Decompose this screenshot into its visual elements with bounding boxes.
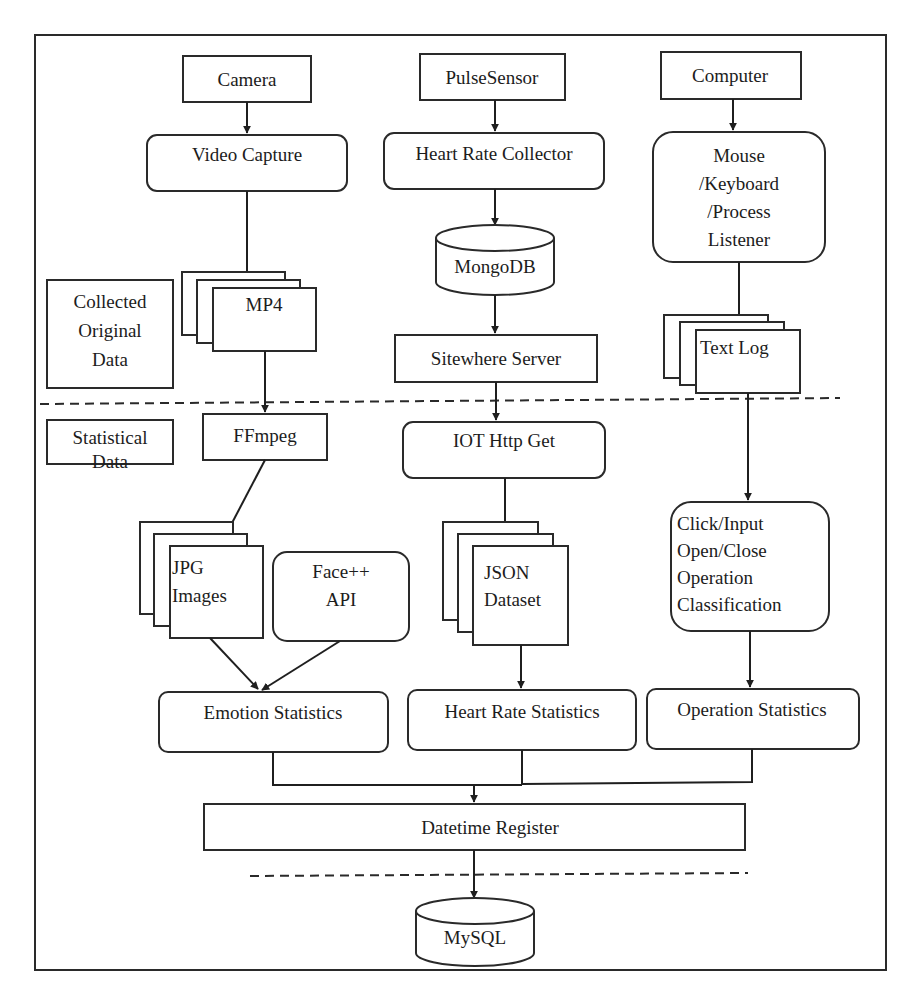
svg-text:MongoDB: MongoDB [454, 256, 535, 277]
svg-text:Emotion Statistics: Emotion Statistics [204, 702, 343, 723]
operation-statistics-node: Operation Statistics [647, 689, 859, 749]
svg-text:JPG: JPG [172, 557, 204, 578]
svg-text:Dataset: Dataset [484, 589, 542, 610]
svg-text:Computer: Computer [692, 65, 769, 86]
svg-text:JSON: JSON [484, 562, 530, 583]
svg-text:Click/Input: Click/Input [677, 513, 764, 534]
ffmpeg-node: FFmpeg [203, 414, 327, 460]
svg-text:Mouse: Mouse [713, 145, 765, 166]
section-label-collected-original-data: Collected Original Data [47, 280, 173, 388]
datetime-register-node: Datetime Register [204, 804, 745, 850]
svg-text:/Process: /Process [707, 201, 770, 222]
computer-node: Computer [661, 52, 801, 99]
jpg-images-stack: JPG Images [140, 522, 263, 638]
svg-text:PulseSensor: PulseSensor [446, 67, 540, 88]
pulsesensor-node: PulseSensor [420, 54, 565, 100]
svg-text:Collected: Collected [74, 291, 147, 312]
text-log-stack: Text Log [664, 315, 800, 393]
svg-text:MySQL: MySQL [444, 927, 506, 948]
svg-text:API: API [326, 589, 357, 610]
mongodb-database-node: MongoDB [436, 225, 554, 295]
svg-text:Heart Rate Statistics: Heart Rate Statistics [444, 701, 599, 722]
svg-text:IOT Http Get: IOT Http Get [453, 430, 556, 451]
svg-text:Original: Original [78, 320, 141, 341]
mouse-keyboard-process-listener-node: Mouse /Keyboard /Process Listener [653, 132, 825, 262]
mp4-files-stack: MP4 [182, 272, 316, 351]
svg-text:Sitewhere Server: Sitewhere Server [431, 348, 562, 369]
svg-text:Operation Statistics: Operation Statistics [677, 699, 826, 720]
sitewhere-server-node: Sitewhere Server [395, 335, 597, 382]
operation-classification-node: Click/Input Open/Close Operation Classif… [671, 502, 829, 631]
svg-text:FFmpeg: FFmpeg [233, 425, 297, 446]
video-capture-node: Video Capture [147, 135, 347, 191]
svg-text:Classification: Classification [677, 594, 782, 615]
section-label-statistical-data: Statistical Data [47, 420, 173, 472]
face-api-node: Face++ API [273, 552, 409, 641]
camera-node: Camera [183, 56, 311, 102]
svg-text:Listener: Listener [708, 229, 771, 250]
svg-text:Images: Images [172, 585, 227, 606]
svg-text:Camera: Camera [217, 69, 277, 90]
heart-rate-collector-node: Heart Rate Collector [384, 133, 604, 189]
iot-http-get-node: IOT Http Get [403, 422, 605, 478]
mysql-database-node: MySQL [416, 898, 534, 966]
data-collection-flow-diagram: Camera Video Capture MP4 Collected Origi… [0, 0, 920, 996]
svg-text:Heart Rate Collector: Heart Rate Collector [415, 143, 573, 164]
svg-text:Datetime Register: Datetime Register [421, 817, 559, 838]
svg-text:Video Capture: Video Capture [192, 144, 302, 165]
emotion-statistics-node: Emotion Statistics [159, 692, 388, 752]
svg-text:Text Log: Text Log [700, 337, 769, 358]
svg-text:Face++: Face++ [312, 561, 369, 582]
svg-text:MP4: MP4 [246, 294, 283, 315]
svg-text:Data: Data [92, 349, 128, 370]
svg-text:Statistical: Statistical [73, 427, 148, 448]
svg-text:/Keyboard: /Keyboard [699, 173, 780, 194]
svg-text:Data: Data [92, 451, 128, 472]
svg-text:Operation: Operation [677, 567, 753, 588]
svg-text:Open/Close: Open/Close [677, 540, 767, 561]
json-dataset-stack: JSON Dataset [443, 522, 568, 645]
heart-rate-statistics-node: Heart Rate Statistics [408, 690, 636, 750]
